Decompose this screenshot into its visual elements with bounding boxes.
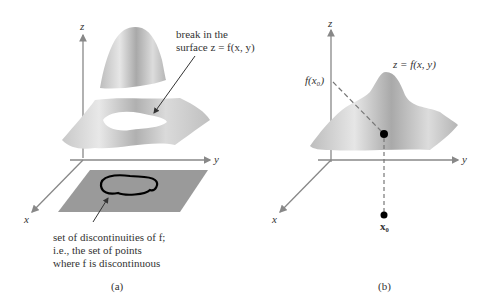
set-annotation: set of discontinuities of f; i.e., the s… [53,231,165,270]
x-axis-label-b: x [272,213,277,226]
y-axis-label-b: y [462,153,467,166]
surface-upper-piece [100,27,166,89]
z-axis-label-a: z [80,20,84,33]
x-axis-label-a: x [24,213,29,226]
surface-point [380,130,388,138]
caption-a: (a) [111,280,123,292]
caption-b: (b) [378,280,391,292]
value-label: f(x₀) [305,74,324,87]
z-axis-label-b: z [328,17,332,30]
surface-label: z = f(x, y) [393,58,436,71]
point-label: x₀ [380,220,389,233]
y-axis-label-a: y [214,153,219,166]
x-axis-b [280,160,331,212]
domain-point [381,212,388,219]
break-annotation: break in the surface z = f(x, y) [176,28,255,54]
panel-a [32,27,210,222]
